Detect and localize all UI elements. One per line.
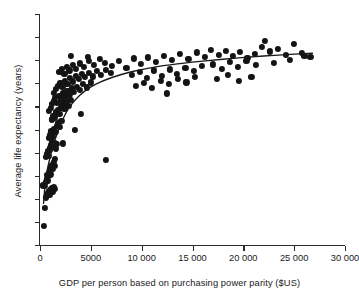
x-axis-label: GDP per person based on purchasing power… — [0, 278, 359, 288]
x-tick-label: 20 000 — [229, 253, 257, 263]
x-tick-label: 30 000 — [331, 253, 359, 263]
x-tick — [91, 246, 92, 251]
scatter-plot-figure: Average life expectancy (years) GDP per … — [0, 0, 359, 298]
x-tick — [142, 246, 143, 251]
x-tick-label: 15 000 — [178, 253, 206, 263]
trend-curve — [40, 14, 345, 245]
x-tick-label: 5000 — [80, 253, 101, 263]
x-tick — [40, 246, 41, 251]
y-axis-label: Average life expectancy (years) — [13, 21, 23, 241]
x-tick-label: 25 000 — [280, 253, 308, 263]
x-tick-label: 0 — [37, 253, 42, 263]
plot-area: 3540455055606570758085 0500010 00015 000… — [40, 14, 345, 245]
x-tick-label: 10 000 — [127, 253, 155, 263]
x-tick — [193, 246, 194, 251]
x-tick — [345, 246, 346, 251]
x-tick — [294, 246, 295, 251]
x-tick — [243, 246, 244, 251]
